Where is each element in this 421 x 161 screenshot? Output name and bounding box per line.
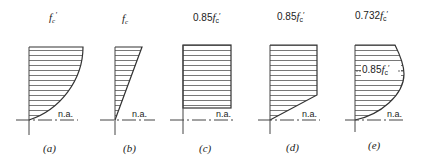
hatch-fill — [183, 45, 231, 108]
neutral-axis-label: n.a. — [132, 109, 147, 119]
neutral-axis-label: n.a. — [387, 109, 402, 119]
panel-a: fc′ n.a. (a) — [16, 11, 89, 155]
panel-b-top-label: fc — [122, 12, 129, 26]
panel-d-caption: (d) — [286, 141, 299, 154]
panel-b: fc n.a. (b) — [100, 12, 155, 155]
panel-d: 0.85fc′ n.a. (d) — [258, 10, 320, 154]
panel-d-top-label: 0.85fc′ — [277, 10, 305, 23]
panel-e-caption: (e) — [368, 139, 381, 152]
neutral-axis-label: n.a. — [302, 109, 317, 119]
stress-distribution-diagram: fc′ n.a. (a) fc n.a. (b) 0.85fc′ n.a. (c… — [0, 0, 421, 161]
panel-b-caption: (b) — [123, 142, 136, 155]
panel-a-top-label: fc′ — [49, 11, 57, 25]
neutral-axis-label: n.a. — [58, 109, 73, 119]
panel-e-top-label: 0.732fc′ — [355, 9, 389, 22]
panel-c-caption: (c) — [199, 142, 212, 155]
neutral-axis-label: n.a. — [216, 109, 231, 119]
panel-a-caption: (a) — [43, 142, 56, 155]
panel-e: 0.732fc′ n.a. 0.85fc′ (e) — [345, 9, 405, 152]
panel-c-top-label: 0.85fc′ — [193, 11, 221, 24]
panel-c: 0.85fc′ n.a. (c) — [170, 11, 236, 155]
